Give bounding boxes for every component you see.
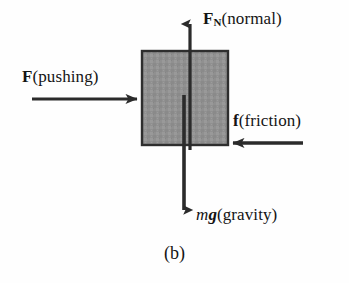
normal-force-symbol: F — [203, 9, 213, 28]
gravity-mass-symbol: m — [196, 205, 208, 224]
gravity-force-description: (gravity) — [217, 205, 277, 224]
gravity-acceleration-symbol: g — [208, 205, 217, 224]
friction-force-description: (friction) — [239, 111, 301, 130]
free-body-diagram-figure: FN(normal) F(pushing) f(friction) mg(gra… — [0, 0, 349, 283]
diagram-canvas — [0, 0, 349, 283]
pushing-force-symbol: F — [22, 67, 32, 86]
normal-force-description: (normal) — [221, 9, 281, 28]
label-friction-force: f(friction) — [233, 112, 301, 129]
figure-caption: (b) — [0, 243, 349, 264]
pushing-force-description: (pushing) — [32, 67, 98, 86]
label-gravity-force: mg(gravity) — [196, 206, 277, 223]
label-pushing-force: F(pushing) — [22, 68, 99, 85]
label-normal-force: FN(normal) — [203, 10, 282, 28]
